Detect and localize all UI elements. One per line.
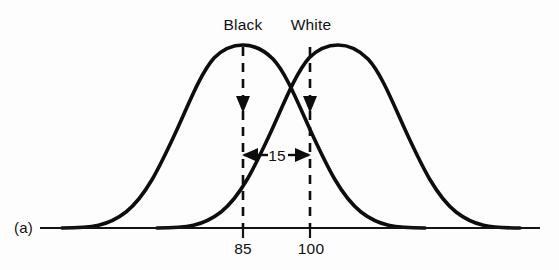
dimension-arrowhead-right [295,148,311,162]
x-tick-label-85: 85 [234,240,252,257]
dashed-line-arrowhead-white [303,96,317,113]
black-distribution-curve [62,45,425,228]
x-tick-label-100: 100 [298,240,325,257]
panel-label: (a) [14,219,33,236]
dimension-value-label: 15 [268,147,286,164]
dimension-arrowhead-left [242,148,258,162]
white-curve-label: White [291,16,332,33]
black-curve-label: Black [224,16,263,33]
white-distribution-curve [157,45,520,228]
distribution-curves-figure: (a) Black White 85 100 15 [0,0,559,270]
figure-container: (a) Black White 85 100 15 [0,0,559,270]
dashed-line-arrowhead-black [236,96,250,113]
